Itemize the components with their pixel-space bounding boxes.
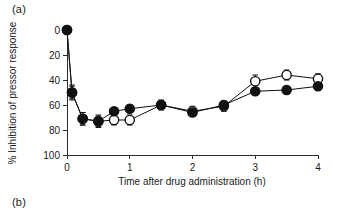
data-point-open-circle [251, 77, 260, 86]
data-point-open-circle [125, 115, 134, 124]
y-axis: 020406080100 [43, 25, 67, 161]
panel-label-b: (b) [12, 196, 26, 208]
y-tick-label: 0 [54, 25, 60, 36]
x-tick-label: 3 [252, 162, 258, 173]
y-tick-label: 20 [49, 50, 61, 61]
data-point-filled-circle [282, 85, 291, 94]
y-axis-tick-labels: 020406080100 [43, 25, 60, 161]
data-point-filled-circle [67, 88, 76, 97]
y-tick-label: 40 [49, 75, 61, 86]
x-axis: 01234 [64, 155, 321, 173]
y-tick-label: 100 [43, 150, 60, 161]
data-point-filled-circle [188, 108, 197, 117]
data-point-open-circle [109, 115, 118, 124]
data-point-filled-circle [78, 114, 87, 123]
data-point-filled-circle [109, 107, 118, 116]
x-axis-ticks [67, 155, 318, 159]
data-point-filled-circle [219, 100, 228, 109]
data-point-filled-circle [313, 82, 322, 91]
x-tick-label: 2 [190, 162, 196, 173]
x-tick-label: 0 [64, 162, 70, 173]
data-point-open-circle [282, 70, 291, 79]
panel-label-a: (a) [12, 3, 26, 15]
x-axis-tick-labels: 01234 [64, 162, 321, 173]
series-markers [62, 25, 322, 125]
figure-panel-a: (a) (b) 020406080100 01234 Time after dr… [0, 0, 339, 209]
y-tick-label: 80 [49, 125, 61, 136]
data-point-filled-circle [125, 104, 134, 113]
x-axis-title: Time after drug administration (h) [118, 176, 265, 187]
line-chart: 020406080100 01234 Time after drug admin… [0, 0, 339, 209]
y-tick-label: 60 [49, 100, 61, 111]
x-tick-label: 1 [127, 162, 133, 173]
data-point-filled-circle [251, 87, 260, 96]
y-axis-ticks [63, 30, 67, 155]
data-point-filled-circle [157, 100, 166, 109]
data-point-filled-circle [94, 117, 103, 126]
x-tick-label: 4 [315, 162, 321, 173]
y-axis-title: % Inhibition of pressor response [7, 21, 18, 164]
data-point-filled-circle [62, 25, 71, 34]
